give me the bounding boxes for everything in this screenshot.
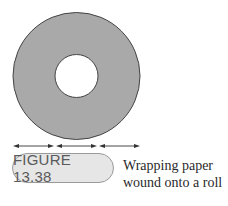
arrowhead-right-icon: [134, 144, 140, 148]
caption-line-1: Wrapping paper: [123, 157, 222, 174]
arrowhead-left-icon: [99, 144, 105, 148]
dimension-arrows: [13, 144, 140, 148]
arrowhead-right-icon: [91, 144, 97, 148]
dimension-arrow-2: [56, 144, 97, 148]
arrowhead-left-icon: [13, 144, 19, 148]
caption-line-2: wound onto a roll: [123, 174, 222, 191]
figure-label-text: FIGURE 13.38: [13, 151, 113, 185]
figure-label: FIGURE 13.38: [12, 153, 114, 183]
inner-core-circle: [55, 55, 98, 98]
roll-diagram: [0, 0, 228, 150]
dimension-arrow-3: [99, 144, 140, 148]
arrowhead-left-icon: [56, 144, 62, 148]
dimension-arrow-1: [13, 144, 54, 148]
figure-caption: Wrapping paper wound onto a roll: [123, 157, 222, 191]
arrowhead-right-icon: [48, 144, 54, 148]
